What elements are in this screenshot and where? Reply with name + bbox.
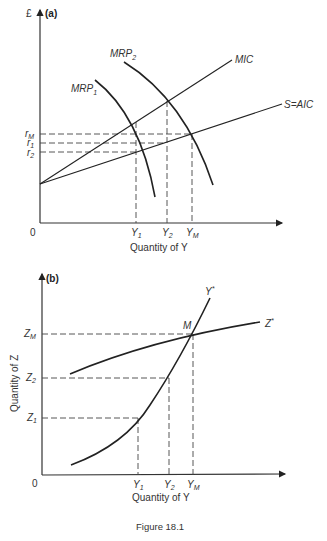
- mrp1-label: MRP1: [71, 83, 97, 96]
- figure-caption: Figure 18.1: [136, 521, 184, 532]
- panel-b-y-axis-label: Quantity of Z: [9, 355, 20, 412]
- tick-Z2: Z2: [25, 372, 36, 384]
- panel-b-x-axis-label: Quantity of Y: [132, 492, 190, 503]
- equilibrium-point-label: M: [183, 320, 192, 331]
- mrp1-curve: [95, 80, 155, 197]
- zstar-label: Z*: [264, 317, 274, 329]
- ystar-label: Y*: [205, 285, 215, 297]
- panel-b-label: (b): [46, 273, 59, 284]
- aic-line: [40, 104, 282, 184]
- panel-a: £ (a) 0 Quantity of Y MRP1 MRP2 MIC S=AI…: [25, 8, 314, 253]
- panel-a-x-axis-label: Quantity of Y: [130, 242, 188, 253]
- aic-label: S=AIC: [284, 99, 314, 110]
- tick-YM: YM: [186, 227, 199, 239]
- panel-a-label: (a): [45, 8, 57, 19]
- figure-canvas: £ (a) 0 Quantity of Y MRP1 MRP2 MIC S=AI…: [0, 0, 327, 541]
- tick-Y2: Y2: [162, 227, 173, 239]
- mic-line: [40, 60, 232, 184]
- tick-b-Y1: Y1: [133, 479, 144, 491]
- mrp2-label: MRP2: [110, 48, 136, 61]
- tick-ZM: ZM: [23, 328, 36, 340]
- panel-a-origin: 0: [30, 227, 36, 238]
- zstar-curve: [70, 322, 260, 374]
- panel-b-x-axis: [42, 474, 285, 475]
- panel-b-origin: 0: [32, 478, 38, 489]
- tick-Z1: Z1: [26, 412, 37, 424]
- tick-b-Y2: Y2: [164, 479, 175, 491]
- tick-b-YM: YM: [187, 479, 200, 491]
- tick-Y1: Y1: [131, 227, 142, 239]
- mic-label: MIC: [235, 54, 254, 65]
- panel-a-y-axis-label: £: [26, 8, 32, 19]
- panel-b: (b) 0 Quantity of Y Quantity of Z Y* Z* …: [9, 273, 285, 503]
